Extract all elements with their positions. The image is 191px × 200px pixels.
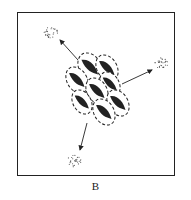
arrow-up-left-icon [60, 40, 78, 60]
cell-cluster [61, 49, 133, 130]
panel-label: B [0, 180, 191, 192]
cloud-right [155, 57, 168, 68]
diagram-canvas [0, 0, 191, 200]
arrow-down-left-icon [80, 123, 87, 150]
cloud-bottom-left [68, 155, 82, 167]
cloud-top-left [44, 27, 58, 38]
arrow-right-icon [122, 70, 152, 84]
